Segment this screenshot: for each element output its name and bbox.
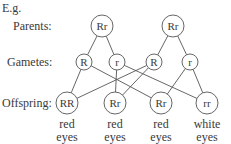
- gamete-offspring-line: [167, 69, 185, 94]
- gamete-offspring-line: [116, 70, 117, 92]
- parent-node: Rr: [162, 15, 184, 37]
- svg-text:r: r: [188, 56, 192, 68]
- phenotype-label: redeyes: [47, 118, 87, 144]
- phenotype-label: redeyes: [95, 118, 135, 144]
- phenotype-label: whiteeyes: [187, 118, 227, 144]
- parent-gamete-line: [106, 36, 114, 54]
- svg-text:Rr: Rr: [97, 20, 108, 32]
- svg-text:R: R: [150, 56, 158, 68]
- svg-text:Rr: Rr: [156, 97, 167, 109]
- svg-text:RR: RR: [60, 97, 75, 109]
- offspring-node: rr: [196, 92, 218, 114]
- gamete-offspring-line: [193, 69, 203, 92]
- offspring-node: RR: [56, 92, 78, 114]
- parent-node: Rr: [91, 15, 113, 37]
- phenotype-trait: eyes: [47, 131, 87, 144]
- phenotype-trait: eyes: [95, 131, 135, 144]
- gamete-offspring-line: [91, 66, 151, 98]
- parent-gamete-line: [88, 36, 98, 55]
- offspring-node: Rr: [104, 92, 126, 114]
- gamete-node: R: [76, 54, 92, 70]
- svg-text:Rr: Rr: [110, 97, 121, 109]
- svg-text:r: r: [115, 56, 119, 68]
- gamete-node: r: [109, 54, 125, 70]
- svg-text:rr: rr: [203, 97, 211, 109]
- offspring-node: Rr: [150, 92, 172, 114]
- svg-text:Rr: Rr: [168, 20, 179, 32]
- parent-gamete-line: [158, 36, 168, 55]
- nodes: RrRrRrRrRRRrRrrr: [56, 15, 218, 114]
- parent-gamete-line: [178, 36, 187, 55]
- svg-text:R: R: [80, 56, 88, 68]
- phenotype-trait: eyes: [187, 131, 227, 144]
- gamete-offspring-line: [123, 68, 149, 95]
- gamete-offspring-line: [71, 69, 81, 92]
- phenotype-trait: eyes: [141, 131, 181, 144]
- gamete-node: R: [146, 54, 162, 70]
- gamete-node: r: [182, 54, 198, 70]
- phenotype-label: redeyes: [141, 118, 181, 144]
- edges: [71, 36, 203, 99]
